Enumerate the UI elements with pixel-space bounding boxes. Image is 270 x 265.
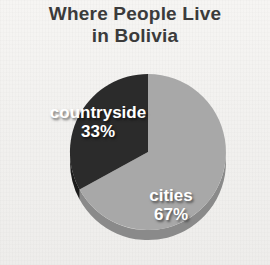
pie-label-countryside-name: countryside — [42, 103, 154, 122]
pie-label-cities-percent: 67% — [126, 205, 216, 224]
pie-label-countryside-percent: 33% — [42, 122, 154, 141]
pie-label-cities-name: cities — [126, 186, 216, 205]
title-line-1: Where People Live — [0, 3, 270, 25]
pie-chart-poster: Where People Live in Bolivia — [0, 0, 270, 265]
pie-label-countryside: countryside 33% — [42, 103, 154, 141]
title-line-2: in Bolivia — [0, 25, 270, 47]
page-title: Where People Live in Bolivia — [0, 3, 270, 47]
pie-label-cities: cities 67% — [126, 186, 216, 224]
